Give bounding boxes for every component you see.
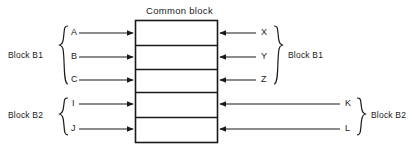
right-brace-b1 xyxy=(274,26,283,84)
left-member-a: A xyxy=(71,28,77,37)
block-b2-right-label: Block B2 xyxy=(371,111,406,120)
right-member-x: X xyxy=(261,28,267,37)
block-b1-left-label: Block B1 xyxy=(8,51,43,60)
left-brace-b1 xyxy=(60,26,69,84)
left-member-b: B xyxy=(71,52,77,61)
block-b2-left-label: Block B2 xyxy=(8,111,43,120)
left-member-j: J xyxy=(71,124,76,133)
common-block-rect xyxy=(136,21,218,143)
left-arrows xyxy=(79,33,133,129)
block-b1-right-label: Block B1 xyxy=(288,51,323,60)
diagram-title: Common block xyxy=(146,6,213,16)
left-member-c: C xyxy=(71,75,78,84)
right-member-l: L xyxy=(345,124,350,133)
diagram-graphics xyxy=(0,0,418,150)
right-member-y: Y xyxy=(261,52,267,61)
common-block-diagram: Common block Block B1 Block B2 A B C I J… xyxy=(0,0,418,150)
right-member-z: Z xyxy=(261,75,267,84)
right-member-k: K xyxy=(345,99,351,108)
right-brace-b2 xyxy=(357,98,366,135)
left-brace-b2 xyxy=(60,98,69,135)
left-member-i: I xyxy=(72,99,75,108)
